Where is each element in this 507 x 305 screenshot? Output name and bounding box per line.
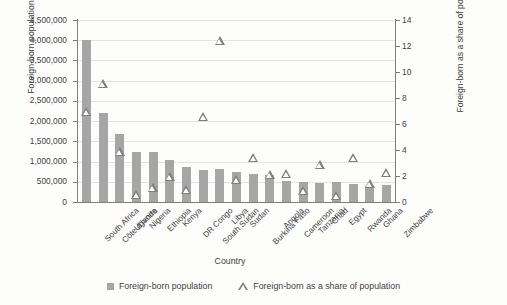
y-tick-left [73, 81, 77, 82]
y-axis-right-tick-label: 6 [402, 119, 422, 129]
y-axis-left-tick-label: 0 [5, 197, 67, 207]
share-marker [248, 153, 258, 162]
legend-label-share: Foreign-born as a share of population [253, 281, 400, 291]
y-axis-right-tick-label: 14 [402, 15, 422, 25]
share-marker-inner [216, 39, 222, 44]
share-marker [231, 175, 241, 184]
y-axis-left-tick-label: 2,000,000 [5, 116, 67, 126]
share-marker-inner [350, 156, 356, 161]
y-axis-right-tick-label: 12 [402, 41, 422, 51]
share-marker-inner [116, 150, 122, 155]
y-axis-left-tick-label: 3,000,000 [5, 75, 67, 85]
legend-label-bar: Foreign-born population [119, 281, 212, 291]
share-marker [98, 79, 108, 88]
share-marker [131, 190, 141, 199]
y-axis-left-tick-label: 500,000 [5, 176, 67, 186]
bar [249, 174, 258, 202]
share-marker-inner [183, 188, 189, 193]
share-marker [165, 172, 175, 181]
bar [82, 40, 91, 202]
legend-item-share: Foreign-born as a share of population [238, 281, 400, 291]
bar [99, 113, 108, 202]
share-marker [265, 170, 275, 179]
x-axis-title: Country [0, 256, 460, 266]
y-axis-right-tick-label: 10 [402, 67, 422, 77]
bar [165, 160, 174, 202]
y-tick-left [73, 40, 77, 41]
chart-container: Foreign-born population Foreign-born as … [0, 0, 507, 305]
gridline [78, 81, 395, 82]
share-marker-inner [166, 175, 172, 180]
bar [215, 169, 224, 202]
bar [349, 184, 358, 202]
share-marker-inner [300, 189, 306, 194]
x-axis-tick-label: Zimbabwe [402, 206, 435, 239]
y-tick-left [73, 20, 77, 21]
share-marker [281, 169, 291, 178]
share-marker-inner [149, 186, 155, 191]
bar-swatch-icon [107, 283, 114, 290]
share-marker [181, 185, 191, 194]
y-axis-right-tick-label: 2 [402, 171, 422, 181]
y-tick-right [396, 72, 400, 73]
gridline [78, 40, 395, 41]
y-axis-left-tick-label: 3,500,000 [5, 55, 67, 65]
y-axis-left-tick-label: 4,000,000 [5, 35, 67, 45]
y-axis-left-tick-label: 1,500,000 [5, 136, 67, 146]
y-axis-right-tick-label: 0 [402, 197, 422, 207]
y-axis-right-title: Foreign-born as a share of population (%… [455, 0, 465, 143]
gridline [78, 141, 395, 142]
bar [265, 175, 274, 202]
share-marker-inner [383, 171, 389, 176]
y-tick-right [396, 46, 400, 47]
share-marker-inner [250, 156, 256, 161]
share-marker [298, 186, 308, 195]
y-tick-left [73, 202, 77, 203]
gridline [78, 60, 395, 61]
bar [282, 181, 291, 202]
y-axis-right-tick-label: 8 [402, 93, 422, 103]
share-marker-inner [133, 193, 139, 198]
x-axis-tick-label: Egypt [347, 206, 368, 227]
x-axis-line [77, 202, 396, 203]
y-axis-left-tick-label: 1,000,000 [5, 156, 67, 166]
share-marker [215, 36, 225, 45]
share-marker-inner [283, 172, 289, 177]
bar [382, 185, 391, 202]
y-tick-right [396, 20, 400, 21]
plot-area [78, 20, 395, 202]
bar [149, 152, 158, 202]
chart-legend: Foreign-born population Foreign-born as … [0, 281, 507, 291]
y-tick-right [396, 176, 400, 177]
bar [115, 134, 124, 202]
y-tick-left [73, 162, 77, 163]
y-tick-left [73, 121, 77, 122]
share-marker [365, 179, 375, 188]
triangle-marker-icon [238, 282, 248, 290]
bar [315, 183, 324, 202]
share-marker [348, 153, 358, 162]
share-marker-inner [233, 178, 239, 183]
gridline [78, 20, 395, 21]
share-marker-inner [316, 163, 322, 168]
y-tick-right [396, 124, 400, 125]
y-tick-left [73, 182, 77, 183]
y-axis-left-tick-label: 2,500,000 [5, 95, 67, 105]
y-tick-left [73, 141, 77, 142]
y-axis-left-tick-label: 4,500,000 [5, 15, 67, 25]
y-tick-left [73, 101, 77, 102]
share-marker-inner [83, 110, 89, 115]
y-tick-right [396, 98, 400, 99]
share-marker [81, 107, 91, 116]
share-marker [331, 191, 341, 200]
share-marker [148, 183, 158, 192]
share-marker-inner [99, 82, 105, 87]
share-marker-inner [366, 182, 372, 187]
share-marker-inner [266, 173, 272, 178]
bar [199, 170, 208, 202]
y-tick-right [396, 150, 400, 151]
y-axis-right-tick-label: 4 [402, 145, 422, 155]
legend-item-bar: Foreign-born population [107, 281, 212, 291]
share-marker-inner [333, 194, 339, 199]
share-marker [198, 112, 208, 121]
